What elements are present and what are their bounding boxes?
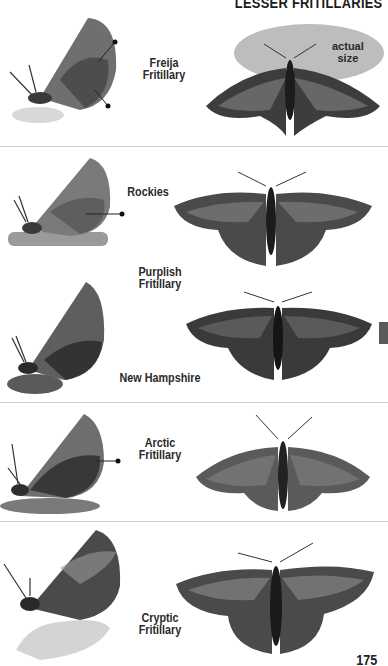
freija-upperside-illustration [200, 18, 388, 138]
species-label-freija: Freija Fritillary [135, 57, 193, 81]
freija-underside-illustration [0, 10, 130, 135]
purplish-rockies-underside-illustration [0, 152, 130, 252]
form-label-rockies: Rockies [121, 186, 175, 198]
species-label-arctic: Arctic Fritillary [131, 437, 189, 461]
form-label-new-hampshire: New Hampshire [115, 372, 205, 384]
section-divider [0, 521, 388, 522]
purplish-newhampshire-upperside-illustration [182, 288, 378, 383]
page-header-title: LESSER FRITILLARIES [234, 0, 382, 11]
species-label-purplish: Purplish Fritillary [131, 266, 189, 290]
arctic-upperside-illustration [190, 405, 376, 510]
section-divider [0, 402, 388, 403]
purplish-rockies-upperside-illustration [168, 166, 378, 271]
section-thumb-tab [379, 322, 388, 344]
cryptic-upperside-illustration [168, 540, 380, 660]
purplish-newhampshire-underside-illustration [0, 280, 120, 398]
section-divider [0, 146, 388, 147]
arctic-underside-illustration [0, 410, 125, 515]
cryptic-underside-illustration [0, 528, 125, 666]
page-number: 175 [356, 652, 377, 666]
